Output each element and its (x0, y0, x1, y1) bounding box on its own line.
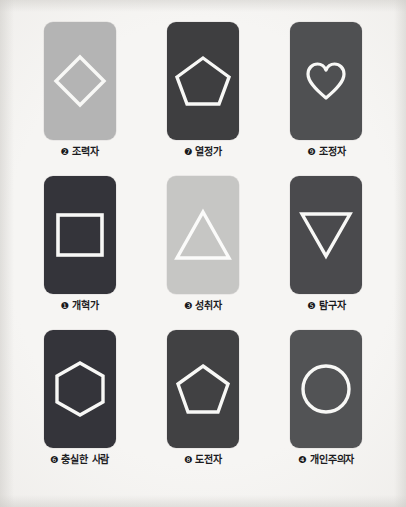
card-caption: ❸ 성취자 (184, 301, 222, 311)
card-number: ❶ (61, 301, 70, 311)
card-cell[interactable]: ❽ 도전자 (141, 330, 264, 484)
card-cell[interactable]: ❼ 열정가 (141, 22, 264, 176)
pentagon-icon (174, 54, 232, 108)
card-face[interactable] (44, 330, 116, 448)
card-cell[interactable]: ❺ 탐구자 (265, 176, 388, 330)
card-number: ❸ (184, 301, 193, 311)
card-face[interactable] (167, 176, 239, 294)
card-face[interactable] (44, 22, 116, 140)
card-cell[interactable]: ❶ 개혁가 (18, 176, 141, 330)
card-face[interactable] (44, 176, 116, 294)
card-label: 성취자 (195, 301, 222, 311)
card-cell[interactable]: ❷ 조력자 (18, 22, 141, 176)
hexagon-icon (54, 360, 106, 418)
card-face[interactable] (167, 330, 239, 448)
card-grid: ❷ 조력자 ❼ 열정가 ❾ (18, 22, 388, 484)
card-label: 열정가 (195, 147, 222, 157)
card-label: 개혁가 (72, 301, 99, 311)
card-number: ❺ (307, 301, 316, 311)
card-caption: ❻ 충실한 사람 (50, 455, 109, 465)
pentagon-icon (175, 363, 231, 415)
card-cell[interactable]: ❸ 성취자 (141, 176, 264, 330)
card-cell[interactable]: ❻ 충실한 사람 (18, 330, 141, 484)
card-cell[interactable]: ❾ 조정자 (265, 22, 388, 176)
card-number: ❻ (50, 455, 59, 465)
card-caption: ❽ 도전자 (184, 455, 222, 465)
card-label: 충실한 사람 (61, 455, 109, 465)
card-number: ❹ (298, 455, 307, 465)
triangle-up-icon (174, 209, 232, 261)
card-number: ❽ (184, 455, 193, 465)
card-face[interactable] (290, 330, 362, 448)
card-number: ❷ (61, 147, 70, 157)
card-caption: ❺ 탐구자 (307, 301, 345, 311)
card-face[interactable] (167, 22, 239, 140)
enneagram-card-sheet: ❷ 조력자 ❼ 열정가 ❾ (0, 0, 406, 507)
triangle-down-icon (299, 211, 353, 259)
card-label: 개인주의자 (310, 455, 355, 465)
square-icon (55, 212, 105, 258)
card-caption: ❷ 조력자 (61, 147, 99, 157)
card-label: 조정자 (319, 147, 346, 157)
card-number: ❼ (184, 147, 193, 157)
card-label: 도전자 (195, 455, 222, 465)
card-number: ❾ (307, 147, 316, 157)
card-cell[interactable]: ❹ 개인주의자 (265, 330, 388, 484)
card-caption: ❶ 개혁가 (61, 301, 99, 311)
card-face[interactable] (290, 22, 362, 140)
card-caption: ❾ 조정자 (307, 147, 345, 157)
circle-icon (300, 363, 352, 415)
heart-icon (305, 61, 347, 101)
card-face[interactable] (290, 176, 362, 294)
diamond-icon (51, 52, 109, 110)
card-caption: ❹ 개인주의자 (298, 455, 354, 465)
card-label: 조력자 (72, 147, 99, 157)
card-caption: ❼ 열정가 (184, 147, 222, 157)
card-label: 탐구자 (319, 301, 346, 311)
